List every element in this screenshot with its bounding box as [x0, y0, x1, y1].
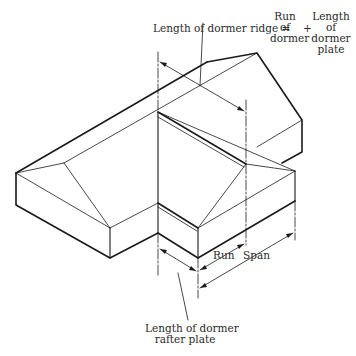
main-roof-back — [207, 53, 302, 163]
term-run-of-dormer: Run of dormer — [270, 11, 300, 44]
main-roof-left-end — [16, 53, 257, 258]
term2-line4: plate — [311, 44, 351, 55]
rafter-plate-label: Length of dormer rafter plate — [145, 323, 225, 345]
roof-drawing — [0, 0, 356, 356]
rafter-plate-line2: rafter plate — [145, 334, 225, 345]
run-label: Run — [213, 250, 234, 261]
dormer — [158, 112, 295, 258]
term1-line3: dormer — [270, 33, 300, 44]
dormer-roof-diagram: Length of dormer ridge = Run of dormer +… — [0, 0, 356, 356]
span-label: Span — [243, 250, 270, 261]
dimension-lines — [158, 23, 295, 320]
term-length-of-dormer-plate: Length of dormer plate — [311, 11, 351, 55]
